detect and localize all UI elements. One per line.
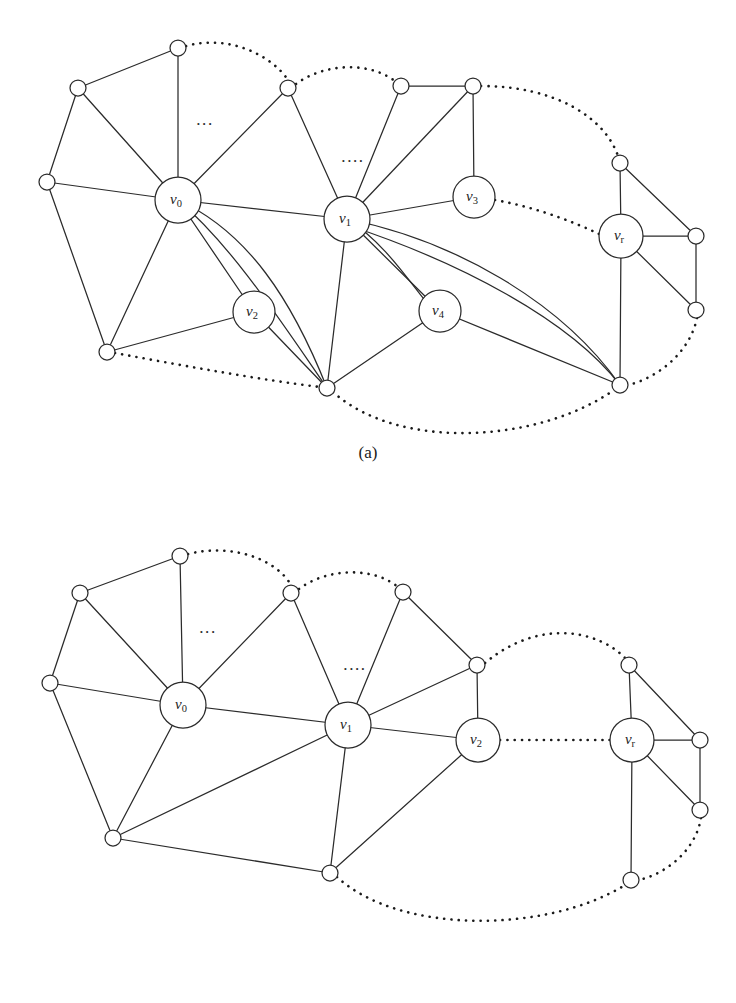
- node-label-sub: 0: [182, 703, 187, 714]
- graph-node: [319, 380, 335, 396]
- edge-dotted: [639, 818, 701, 880]
- edge-dotted: [495, 200, 599, 234]
- figure-a-container: ... .... v0 v1: [0, 0, 736, 500]
- edge-dotted: [299, 572, 399, 589]
- node-label-sub: 0: [177, 198, 182, 209]
- graph-node: [692, 732, 708, 748]
- graph-node: [688, 302, 704, 318]
- graph-node-v1: v1: [325, 702, 371, 748]
- graph-node: [70, 80, 86, 96]
- figure-a-plain-nodes: [39, 40, 704, 396]
- graph-node-v2: v2: [456, 718, 500, 762]
- edge: [113, 838, 330, 873]
- edge: [107, 200, 178, 352]
- graph-node: [172, 548, 188, 564]
- graph-node-v2: v2: [233, 291, 275, 333]
- graph-node: [170, 40, 186, 56]
- edge-dotted: [628, 318, 697, 385]
- graph-node: [465, 78, 481, 94]
- graph-node-v0: v0: [155, 177, 201, 223]
- edge: [47, 182, 107, 352]
- graph-node: [688, 228, 704, 244]
- figure-a-edges: [47, 48, 696, 388]
- edge: [403, 592, 477, 665]
- edge: [50, 683, 113, 838]
- graph-node: [393, 78, 409, 94]
- node-label-sub: 1: [346, 217, 351, 228]
- figure-b-container: ... .... v0 v1: [0, 505, 736, 1003]
- graph-node: [692, 802, 708, 818]
- edge: [330, 740, 478, 873]
- graph-node: [621, 657, 637, 673]
- graph-node: [105, 830, 121, 846]
- figure-a-ellipsis-marks: ... ....: [196, 110, 364, 166]
- node-label-sub: 4: [439, 309, 445, 320]
- graph-node-v4: v4: [419, 290, 461, 332]
- graph-node: [612, 377, 628, 393]
- graph-node: [322, 865, 338, 881]
- node-label-sub: r: [632, 738, 636, 749]
- node-label-sub: 1: [347, 723, 352, 734]
- edge-curved: [347, 219, 620, 385]
- graph-node-v0: v0: [160, 682, 206, 728]
- edge: [327, 219, 347, 388]
- edge-dotted: [296, 67, 396, 84]
- graph-node-vr: vr: [610, 718, 654, 762]
- edge: [178, 200, 347, 219]
- node-label-sub: 3: [473, 195, 478, 206]
- graph-node-v1: v1: [324, 196, 370, 242]
- figure-b-plain-nodes: [42, 548, 708, 888]
- graph-node: [39, 174, 55, 190]
- edge-dotted: [115, 353, 320, 387]
- node-label-sub: 2: [253, 310, 258, 321]
- graph-node: [72, 585, 88, 601]
- edge: [183, 705, 348, 725]
- edge-dotted: [333, 390, 614, 433]
- edge-dotted: [481, 86, 618, 156]
- figure-b-ellipsis-marks: ... ....: [199, 618, 366, 674]
- ellipsis-mark: ....: [343, 655, 366, 674]
- ellipsis-mark: ....: [341, 147, 364, 166]
- graph-node: [42, 675, 58, 691]
- graph-node: [280, 80, 296, 96]
- edge: [440, 311, 620, 385]
- edge: [107, 312, 254, 352]
- graph-node: [395, 584, 411, 600]
- node-label-sub: 2: [477, 738, 482, 749]
- ellipsis-mark: ...: [199, 618, 217, 637]
- node-label-sub: r: [621, 234, 625, 245]
- graph-node: [612, 155, 628, 171]
- graph-node-vr: vr: [599, 214, 643, 258]
- figure-a-graph: ... .... v0 v1: [0, 0, 736, 500]
- edge: [78, 48, 178, 88]
- edge-dotted: [485, 633, 626, 663]
- graph-node: [623, 872, 639, 888]
- figure-b-edges: [50, 556, 700, 880]
- figure-b-labeled-nodes: v0 v1 v2 vr: [160, 682, 654, 762]
- graph-node-v3: v3: [453, 176, 495, 218]
- edge: [80, 556, 180, 593]
- edge: [50, 593, 80, 683]
- figure-a-caption: (a): [0, 443, 736, 463]
- edge-dotted: [188, 550, 291, 585]
- graph-node: [283, 585, 299, 601]
- edge-dotted: [337, 877, 625, 921]
- edge-dotted: [186, 43, 288, 80]
- edge: [113, 725, 348, 838]
- edge-curved: [347, 225, 620, 385]
- figure-b-graph: ... .... v0 v1: [0, 505, 736, 945]
- graph-node: [99, 344, 115, 360]
- figure-a-labeled-nodes: v0 v1 v2 v3 v4 vr: [155, 176, 643, 333]
- graph-node: [469, 657, 485, 673]
- ellipsis-mark: ...: [196, 110, 214, 129]
- edge: [47, 88, 78, 182]
